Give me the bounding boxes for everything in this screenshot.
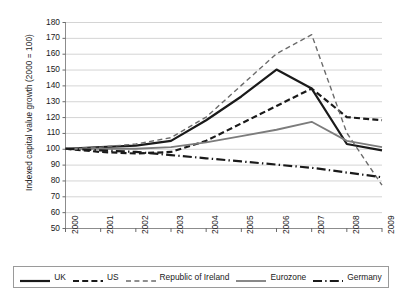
y-tick-label: 100 <box>36 143 60 153</box>
x-tick-label: 2006 <box>281 215 291 234</box>
legend-swatch-icon <box>20 272 50 282</box>
x-tick-label: 2004 <box>210 215 220 234</box>
legend-swatch-icon <box>73 272 103 282</box>
y-tick-label: 50 <box>36 223 60 233</box>
chart-screenshot: Indexed capital value growth (2000 = 100… <box>0 0 402 302</box>
legend-label: Eurozone <box>270 272 306 282</box>
legend-swatch-icon <box>126 272 156 282</box>
x-tick-label: 2009 <box>386 215 396 234</box>
x-tick-label: 2002 <box>140 215 150 234</box>
y-tick-label: 90 <box>36 159 60 169</box>
y-tick-label: 120 <box>36 112 60 122</box>
y-tick-label: 60 <box>36 207 60 217</box>
data-series-group <box>66 35 383 186</box>
x-tick-label: 2000 <box>70 215 80 234</box>
legend-label: UK <box>54 272 66 282</box>
legend-item-republic-of-ireland[interactable]: Republic of Ireland <box>126 272 230 282</box>
x-tick-label: 2003 <box>175 215 185 234</box>
legend-label: US <box>107 272 119 282</box>
series-line-republic-of-ireland <box>66 35 383 186</box>
legend-label: Germany <box>347 272 381 282</box>
y-tick-label: 110 <box>36 127 60 137</box>
y-tick-label: 150 <box>36 64 60 74</box>
legend-swatch-icon <box>236 272 266 282</box>
y-tick-label: 180 <box>36 17 60 27</box>
y-tick-label: 130 <box>36 96 60 106</box>
legend-label: Republic of Ireland <box>160 272 230 282</box>
legend-item-germany[interactable]: Germany <box>313 272 381 282</box>
legend-item-us[interactable]: US <box>73 272 119 282</box>
legend-swatch-icon <box>313 272 343 282</box>
legend-item-uk[interactable]: UK <box>20 272 66 282</box>
y-tick-label: 160 <box>36 48 60 58</box>
x-tick-label: 2005 <box>245 215 255 234</box>
line-chart: Indexed capital value growth (2000 = 100… <box>0 0 402 258</box>
legend-item-eurozone[interactable]: Eurozone <box>236 272 306 282</box>
y-tick-label: 80 <box>36 175 60 185</box>
x-tick-label: 2001 <box>105 215 115 234</box>
x-tick-label: 2007 <box>316 215 326 234</box>
x-tick-label: 2008 <box>351 215 361 234</box>
y-axis-title: Indexed capital value growth (2000 = 100… <box>25 8 34 218</box>
chart-legend: UKUSRepublic of IrelandEurozoneGermany <box>13 266 389 288</box>
y-tick-label: 70 <box>36 191 60 201</box>
series-line-uk <box>66 70 383 151</box>
y-tick-label: 170 <box>36 32 60 42</box>
y-tick-label: 140 <box>36 80 60 90</box>
chart-canvas <box>0 0 402 258</box>
